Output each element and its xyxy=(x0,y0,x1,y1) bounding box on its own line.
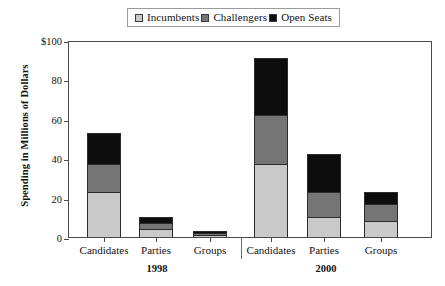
bar-segment-incumbents xyxy=(87,192,121,237)
y-tick-label-80: 80 xyxy=(52,76,63,87)
bar-1998-parties xyxy=(139,217,173,237)
bar-1998-candidates xyxy=(87,133,121,237)
bar-segment-open-seats xyxy=(307,154,341,191)
legend-label-open-seats: Open Seats xyxy=(281,12,332,23)
y-tick-20 xyxy=(64,200,69,201)
bar-2000-groups xyxy=(364,192,398,237)
bar-segment-challengers xyxy=(87,164,121,192)
y-tick-label-40: 40 xyxy=(52,155,63,166)
bar-segment-challengers xyxy=(307,192,341,218)
y-tick-label-60: 60 xyxy=(52,116,63,127)
bar-segment-challengers xyxy=(364,204,398,222)
x-axis-label-5: Groups xyxy=(365,245,397,256)
legend-entry-incumbents: Incumbents xyxy=(135,12,199,23)
legend-swatch-icon-open-seats xyxy=(269,14,277,22)
y-tick-0 xyxy=(64,239,69,240)
bar-chart: Incumbents Challengers Open Seats Spendi… xyxy=(0,0,445,286)
chart-legend: Incumbents Challengers Open Seats xyxy=(127,8,340,27)
x-tick-2 xyxy=(210,237,211,242)
y-tick-label-20: 20 xyxy=(52,194,63,205)
bar-segment-open-seats xyxy=(364,192,398,204)
x-axis-label-3: Candidates xyxy=(247,245,296,256)
x-axis-label-0: Candidates xyxy=(80,245,129,256)
x-tick-3 xyxy=(271,237,272,242)
x-axis-label-1: Parties xyxy=(141,245,171,256)
group-label-2000: 2000 xyxy=(316,264,337,275)
legend-entry-open-seats: Open Seats xyxy=(269,12,332,23)
bar-2000-parties xyxy=(307,154,341,237)
y-tick-60 xyxy=(64,121,69,122)
bar-segment-incumbents xyxy=(364,221,398,237)
x-axis-label-2: Groups xyxy=(194,245,226,256)
legend-entry-challengers: Challengers xyxy=(201,12,267,23)
legend-label-challengers: Challengers xyxy=(213,12,267,23)
bar-2000-candidates xyxy=(254,58,288,237)
y-tick-40 xyxy=(64,160,69,161)
legend-label-incumbents: Incumbents xyxy=(147,12,199,23)
x-tick-4 xyxy=(324,237,325,242)
year-group-separator xyxy=(241,237,242,259)
bar-segment-incumbents xyxy=(139,229,173,237)
bar-segment-incumbents xyxy=(307,217,341,237)
y-tick-100 xyxy=(64,42,69,43)
y-axis-title: Spending in Millions of Dollars xyxy=(19,36,30,236)
y-tick-80 xyxy=(64,81,69,82)
x-tick-1 xyxy=(156,237,157,242)
bar-segment-open-seats xyxy=(87,133,121,165)
plot-area: 020406080$100 CandidatesPartiesGroupsCan… xyxy=(68,41,432,238)
x-tick-0 xyxy=(104,237,105,242)
bar-segment-incumbents xyxy=(254,164,288,237)
bar-segment-open-seats xyxy=(254,58,288,115)
x-tick-5 xyxy=(381,237,382,242)
y-tick-label-100: $100 xyxy=(41,37,62,48)
bar-segment-challengers xyxy=(254,115,288,164)
legend-swatch-icon-incumbents xyxy=(135,14,143,22)
y-tick-label-0: 0 xyxy=(57,234,62,245)
group-label-1998: 1998 xyxy=(147,264,168,275)
legend-swatch-icon-challengers xyxy=(201,14,209,22)
x-axis-label-4: Parties xyxy=(309,245,339,256)
